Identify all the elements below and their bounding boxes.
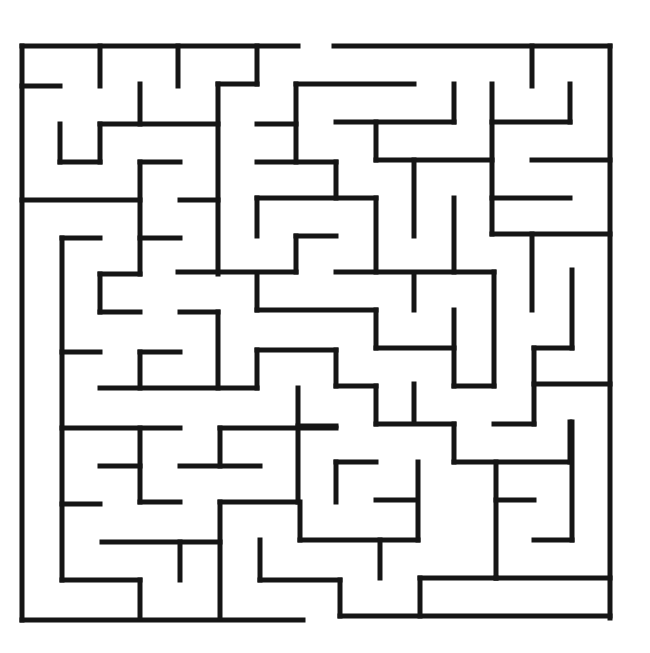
maze-background xyxy=(0,0,650,653)
maze-board xyxy=(0,0,650,653)
